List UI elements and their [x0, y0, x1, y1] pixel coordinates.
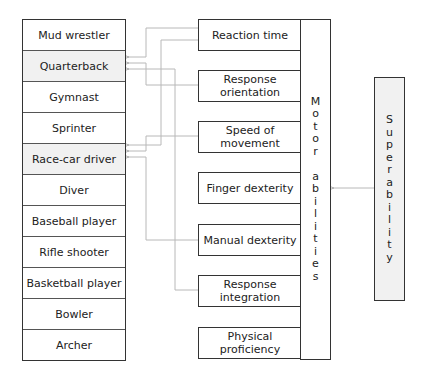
ability-manual-dexterity: Manual dexterity	[198, 224, 302, 256]
occupation-sprinter: Sprinter	[23, 113, 125, 144]
occupation-mud-wrestler: Mud wrestler	[23, 20, 125, 51]
motor-letter: l	[314, 208, 317, 221]
ability-finger-dexterity: Finger dexterity	[198, 172, 302, 204]
motor-letter: e	[312, 258, 319, 271]
superability-box: S u p e r a b i l i t y	[374, 77, 405, 301]
ability-label-line2: proficiency	[220, 343, 280, 356]
occupation-archer: Archer	[23, 330, 125, 360]
ability-response-integration: Response integration	[198, 275, 302, 307]
motor-letter: o	[312, 133, 319, 146]
connector-speed-racecar	[128, 136, 198, 151]
occupation-bowler: Bowler	[23, 299, 125, 330]
occupation-quarterback: Quarterback	[23, 51, 125, 82]
superability-letter: t	[387, 239, 391, 252]
ability-label-line2: movement	[220, 137, 280, 150]
ability-label: Finger dexterity	[207, 182, 294, 195]
superability-letter: y	[386, 252, 393, 265]
connector-manual-racecar	[128, 157, 198, 240]
motor-abilities-column: M o t o r a b i l i t i e s	[300, 19, 331, 360]
occupation-list: Mud wrestler Quarterback Gymnast Sprinte…	[22, 19, 126, 361]
ability-label-line1: Response	[220, 73, 280, 86]
superability-letter: S	[386, 114, 393, 127]
superability-letter: b	[386, 189, 393, 202]
motor-letter: o	[312, 108, 319, 121]
ability-label: Manual dexterity	[203, 234, 296, 247]
ability-physical-proficiency: Physical proficiency	[198, 327, 302, 359]
occupation-diver: Diver	[23, 175, 125, 206]
superability-letter: p	[386, 139, 393, 152]
motor-letter: r	[313, 146, 318, 159]
connector-orientation-quarterback	[128, 63, 198, 85]
ability-label: Reaction time	[212, 29, 288, 42]
occupation-baseball-player: Baseball player	[23, 206, 125, 237]
ability-label-line1: Speed of	[220, 124, 280, 137]
connector-integration-quarterback	[128, 69, 198, 290]
occupation-race-car-driver: Race-car driver	[23, 144, 125, 175]
ability-response-orientation: Response orientation	[198, 70, 302, 102]
ability-label-line2: integration	[220, 291, 280, 304]
occupation-gymnast: Gymnast	[23, 82, 125, 113]
superability-letter: r	[387, 164, 392, 177]
motor-letter: t	[313, 233, 317, 246]
connector-reaction-racecar	[128, 40, 198, 145]
ability-reaction-time: Reaction time	[198, 19, 302, 51]
connector-reaction-quarterback	[128, 28, 198, 57]
motor-letter: s	[313, 271, 319, 284]
occupation-basketball-player: Basketball player	[23, 268, 125, 299]
ability-label-line1: Physical	[220, 330, 280, 343]
ability-speed-of-movement: Speed of movement	[198, 121, 302, 153]
ability-label-line2: orientation	[220, 86, 280, 99]
motor-letter: b	[312, 183, 319, 196]
superability-letter: l	[388, 214, 391, 227]
ability-label-line1: Response	[220, 278, 280, 291]
occupation-rifle-shooter: Rifle shooter	[23, 237, 125, 268]
